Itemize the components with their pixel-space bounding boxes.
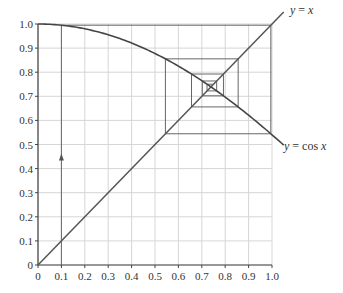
x-tick-label: 0.1 [55, 270, 69, 282]
y-tick-label: 0.5 [19, 139, 33, 151]
series-labels: y = xy = cos x [283, 3, 327, 153]
x-tick-label: 0.7 [195, 270, 209, 282]
y-tick-label: 0.2 [19, 211, 33, 223]
y-tick-label: 0.3 [19, 187, 33, 199]
x-tick-label: 0.3 [101, 270, 115, 282]
x-tick-label: 1.0 [265, 270, 279, 282]
x-tick-label: 0.8 [218, 270, 232, 282]
y-tick-label: 0.9 [19, 42, 33, 54]
plot-area: 000.10.10.20.20.30.30.40.40.50.50.60.60.… [0, 0, 343, 293]
y-tick-label: 1.0 [19, 18, 33, 30]
x-tick-label: 0.2 [78, 270, 92, 282]
x-tick-label: 0.6 [172, 270, 186, 282]
label-y-equals-cos-x: y = cos x [283, 139, 327, 153]
y-tick-label: 0.4 [19, 163, 33, 175]
curve-y-equals-cos-x [38, 24, 284, 145]
y-tick-label: 0.7 [19, 90, 33, 102]
x-tick-label: 0.9 [242, 270, 256, 282]
cobweb-chart: 000.10.10.20.20.30.30.40.40.50.50.60.60.… [0, 0, 343, 293]
label-y-equals-x: y = x [289, 3, 314, 17]
y-tick-label: 0.6 [19, 114, 33, 126]
y-tick-label: 0.8 [19, 66, 33, 78]
y-tick-label: 0 [28, 259, 34, 271]
x-tick-label: 0.4 [125, 270, 139, 282]
y-tick-label: 0.1 [19, 235, 33, 247]
cobweb-line [61, 25, 270, 265]
line-y-equals-x [38, 12, 284, 265]
curves [38, 12, 284, 265]
arrow-up-icon [59, 154, 64, 161]
cobweb-path [59, 25, 271, 265]
x-tick-label: 0 [35, 270, 41, 282]
x-tick-label: 0.5 [148, 270, 162, 282]
